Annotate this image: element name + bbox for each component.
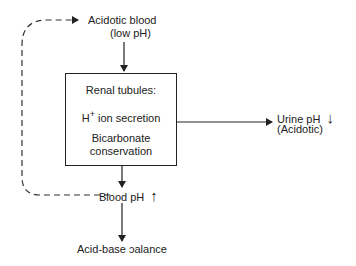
- conservation-label: conservation: [66, 145, 176, 158]
- renal-tubules-title: Renal tubules:: [66, 84, 176, 97]
- arrow-down-icon: ↓: [326, 109, 334, 126]
- secretion-text: ion secretion: [95, 112, 160, 124]
- node-acid-base-balance: Acid-base ɔalance: [77, 243, 167, 256]
- h-symbol: H: [82, 112, 90, 124]
- blood-ph-label: Blood pH: [99, 191, 144, 203]
- node-blood-ph: Blood pH↑: [99, 189, 158, 204]
- node-renal-tubules: Renal tubules: H+ ion secretion Bicarbon…: [65, 73, 177, 166]
- h-ion-secretion-label: H+ ion secretion: [66, 108, 176, 125]
- acidotic-blood-label: Acidotic blood: [88, 14, 157, 27]
- node-urine-ph: Urine pH↓ (Acidotic): [277, 111, 334, 136]
- arrow-up-icon: ↑: [150, 187, 158, 204]
- acidotic-blood-sublabel: (low pH): [88, 27, 157, 40]
- bicarbonate-label: Bicarbonate: [66, 132, 176, 145]
- node-acidotic-blood: Acidotic blood (low pH): [88, 14, 157, 40]
